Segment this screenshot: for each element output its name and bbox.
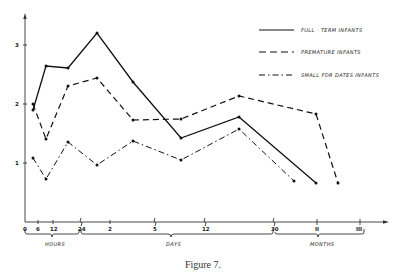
x-tick-24h: 24 [78,226,86,232]
series-small-for-dates [33,129,294,181]
x-tick-0: 0 [23,226,27,232]
x-tick-30d: 30 [271,226,279,232]
x-tick-5d: 5 [153,226,157,232]
legend: FULL - TERM INFANTS PREMATURE INFANTS SM… [259,27,380,78]
figure-caption: Figure 7. [0,259,406,270]
y-axis [23,13,27,222]
x-tick-6h: 6 [36,226,40,232]
series-premature [33,78,338,183]
x-group-hours: HOURS [45,241,65,247]
x-group-days: DAYS [166,241,182,247]
y-tick-3: 3 [15,42,19,48]
x-tick-II: II [315,226,319,232]
line-chart: 3 2 1 0 6 12 24 2 5 12 30 II III HOURS D… [0,0,406,275]
data-points [32,32,340,185]
x-tick-2d: 2 [108,226,112,232]
x-tick-12h: 12 [50,226,58,232]
series-full-term [33,33,316,183]
x-tick-III: III [356,226,362,232]
y-tick-1: 1 [15,160,19,166]
x-tick-12d: 12 [202,226,210,232]
legend-small-for-dates: SMALL FOR DATES INFANTS [301,72,380,78]
legend-premature: PREMATURE INFANTS [301,49,361,55]
legend-full-term: FULL - TERM INFANTS [301,27,363,33]
x-group-months: MONTHS [310,241,335,247]
y-tick-2: 2 [15,101,19,107]
